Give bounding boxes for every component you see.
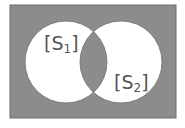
- set-s2-label: [S2]: [114, 71, 149, 95]
- set-s1-label: [S1]: [44, 32, 79, 56]
- venn-diagram: [S1] [S2]: [0, 0, 185, 128]
